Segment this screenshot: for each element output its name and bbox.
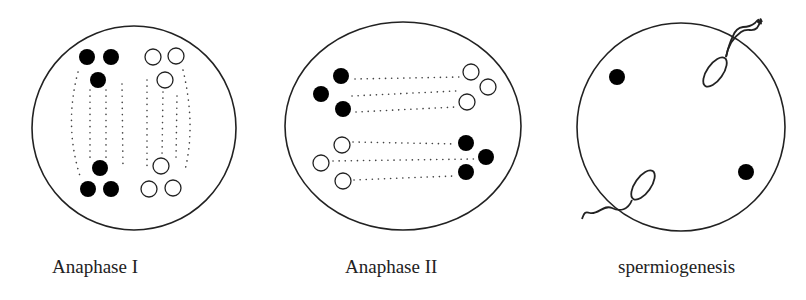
chromosomes-filled [313,68,494,180]
panel-label-anaphase-1: Anaphase I [52,256,138,278]
chromosomes-filled [79,49,119,197]
panel-spermiogenesis [577,19,785,231]
panel-label-spermiogenesis: spermiogenesis [618,256,735,278]
nucleus-dot [738,164,754,180]
spindle-fibers [333,77,476,180]
diagram-canvas [0,0,806,300]
spindle-fibers [71,70,190,176]
panel-anaphase-1 [32,26,236,230]
nucleus-dot [609,69,625,85]
panel-anaphase-2 [285,22,521,230]
cell-outline [285,22,521,230]
panel-label-anaphase-2: Anaphase II [345,256,437,278]
sperm-cell-upper [699,19,762,90]
cell-outline [577,23,785,231]
cell-outline [32,26,236,230]
